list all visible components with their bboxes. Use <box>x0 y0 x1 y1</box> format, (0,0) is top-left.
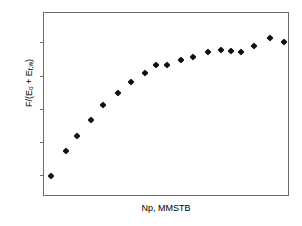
y-axis-tick <box>40 76 44 77</box>
data-point <box>218 46 225 53</box>
plot-frame <box>43 12 289 196</box>
data-point <box>267 34 274 41</box>
data-point <box>251 43 258 50</box>
data-point <box>152 62 159 69</box>
ylabel-middle: + E <box>24 70 34 86</box>
data-point <box>204 48 211 55</box>
data-point <box>63 147 70 154</box>
data-point <box>237 48 244 55</box>
y-axis-tick <box>40 42 44 43</box>
data-point <box>87 116 94 123</box>
data-point <box>280 38 287 45</box>
data-point <box>227 47 234 54</box>
y-axis-tick <box>40 109 44 110</box>
y-axis-tick <box>40 175 44 176</box>
data-point <box>99 101 106 108</box>
ylabel-suffix: ) <box>24 59 34 62</box>
figure: F/(Eo + Ef,w) Np, MMSTB <box>0 0 302 226</box>
ylabel-subscript-fw: f,w <box>27 62 34 70</box>
ylabel-prefix: F/(E <box>24 90 34 107</box>
data-point <box>163 62 170 69</box>
x-axis-label: Np, MMSTB <box>43 203 289 213</box>
y-axis-label: F/(Eo + Ef,w) <box>22 0 36 196</box>
data-point <box>189 54 196 61</box>
y-axis-label-text: F/(Eo + Ef,w) <box>22 59 38 107</box>
plot-area <box>44 13 288 195</box>
y-axis-tick <box>40 142 44 143</box>
data-point <box>114 89 121 96</box>
data-point <box>74 133 81 140</box>
ylabel-subscript-o: o <box>27 86 34 90</box>
data-point <box>48 172 55 179</box>
data-point <box>128 78 135 85</box>
data-point <box>141 69 148 76</box>
data-point <box>177 56 184 63</box>
